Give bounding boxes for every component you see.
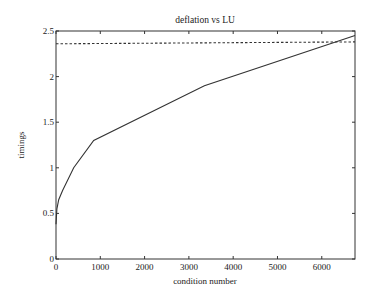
x-tick-label: 1000 xyxy=(91,262,110,272)
x-tick-label: 2000 xyxy=(136,262,155,272)
series-deflation xyxy=(56,36,355,225)
y-tick-label: 1.5 xyxy=(43,117,55,127)
y-tick-label: 0.5 xyxy=(43,208,55,218)
series-group xyxy=(56,36,355,225)
x-axis: 0100020003000400050006000 xyxy=(54,31,332,272)
y-axis-label: timings xyxy=(16,131,26,159)
series-LU xyxy=(56,42,355,44)
x-tick-label: 0 xyxy=(54,262,59,272)
x-tick-label: 6000 xyxy=(313,262,332,272)
x-tick-label: 3000 xyxy=(180,262,199,272)
chart: deflation vs LU 010002000300040005000600… xyxy=(0,0,373,299)
x-axis-label: condition number xyxy=(173,276,237,286)
y-tick-label: 2 xyxy=(50,72,55,82)
y-tick-label: 1 xyxy=(50,163,55,173)
y-tick-label: 2.5 xyxy=(43,26,55,36)
y-axis: 00.511.522.5 xyxy=(43,26,355,264)
x-tick-label: 5000 xyxy=(268,262,287,272)
chart-title: deflation vs LU xyxy=(175,15,235,25)
x-tick-label: 4000 xyxy=(224,262,243,272)
plot-area xyxy=(56,31,355,259)
y-tick-label: 0 xyxy=(50,254,55,264)
